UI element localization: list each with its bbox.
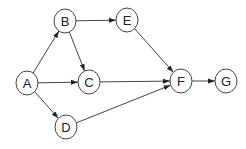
node-c: C (78, 70, 100, 94)
edge-a-d (35, 92, 59, 119)
edge-b-e (76, 20, 116, 21)
node-e: E (116, 8, 138, 32)
directed-graph: ABCDEFG (0, 0, 246, 149)
node-a: A (16, 71, 38, 95)
edge-a-c (38, 82, 78, 83)
node-label: C (84, 75, 93, 90)
edge-b-c (69, 32, 84, 71)
node-d: D (55, 115, 77, 139)
node-label: A (23, 76, 32, 91)
node-g: G (215, 69, 237, 93)
node-label: G (221, 74, 231, 89)
edge-e-f (135, 29, 174, 73)
edge-c-f (100, 81, 170, 82)
edge-a-b (33, 31, 59, 73)
node-b: B (54, 9, 76, 33)
node-label: D (61, 120, 70, 135)
node-label: E (123, 13, 132, 28)
node-label: B (61, 14, 70, 29)
nodes-layer: ABCDEFG (16, 8, 237, 139)
node-label: F (177, 74, 185, 89)
node-f: F (170, 69, 192, 93)
